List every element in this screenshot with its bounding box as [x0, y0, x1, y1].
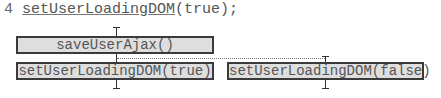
left-call-label: setUserLoadingDOM(true)	[18, 63, 211, 79]
top-call-box[interactable]: saveUserAjax()	[16, 36, 214, 54]
code-args: (true);	[175, 1, 238, 18]
dotted-branch-line	[117, 58, 325, 59]
connector-tee-left-bottom	[113, 88, 120, 89]
left-call-box[interactable]: setUserLoadingDOM(true)	[16, 62, 214, 80]
connector-tee-right-bottom	[322, 88, 329, 89]
function-call-link[interactable]: setUserLoadingDOM	[22, 1, 175, 18]
right-call-label: setUserLoadingDOM(false)	[229, 63, 431, 79]
line-number: 4	[4, 1, 13, 18]
connector-right-bottom	[325, 80, 326, 88]
code-line: 4 setUserLoadingDOM(true);	[4, 1, 238, 18]
connector-top	[116, 27, 117, 36]
connector-left-bottom	[116, 80, 117, 88]
top-call-label: saveUserAjax()	[56, 37, 174, 53]
right-call-box[interactable]: setUserLoadingDOM(false)	[227, 62, 424, 80]
